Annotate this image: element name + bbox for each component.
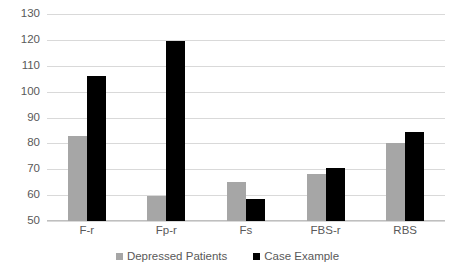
legend-label: Case Example <box>264 250 339 262</box>
legend-swatch-icon <box>253 253 260 260</box>
bar[interactable] <box>386 143 405 221</box>
bar-group <box>206 14 286 221</box>
x-axis-tick-label: Fp-r <box>127 224 207 237</box>
y-axis-tick-label: 100 <box>0 86 40 98</box>
y-axis-tick-label: 60 <box>0 189 40 201</box>
bar-groups <box>47 14 445 221</box>
legend-swatch-icon <box>116 253 123 260</box>
bar-group <box>47 14 127 221</box>
bar[interactable] <box>166 41 185 221</box>
y-axis-tick-label: 50 <box>0 215 40 227</box>
gridline <box>47 221 445 222</box>
bar[interactable] <box>227 182 246 221</box>
x-axis-tick-label: FBS-r <box>286 224 366 237</box>
chart-legend: Depressed PatientsCase Example <box>0 250 455 262</box>
bar-group <box>365 14 445 221</box>
y-axis-tick-label: 80 <box>0 138 40 150</box>
bar-group <box>127 14 207 221</box>
y-axis-tick-label: 90 <box>0 112 40 124</box>
y-axis-tick-label: 70 <box>0 164 40 176</box>
bar[interactable] <box>147 196 166 221</box>
bar[interactable] <box>405 132 424 221</box>
bar[interactable] <box>307 174 326 221</box>
y-axis-tick-label: 120 <box>0 34 40 46</box>
x-axis-tick-labels: F-rFp-rFsFBS-rRBS <box>47 224 445 237</box>
bar-group <box>286 14 366 221</box>
plot-area <box>47 14 445 221</box>
bar[interactable] <box>68 136 87 221</box>
legend-item[interactable]: Case Example <box>253 250 339 262</box>
x-axis-tick-label: RBS <box>365 224 445 237</box>
y-axis-tick-labels: 1301201101009080706050 <box>0 14 40 221</box>
bar-chart: 1301201101009080706050 F-rFp-rFsFBS-rRBS… <box>0 0 455 276</box>
y-axis-tick-label: 110 <box>0 60 40 72</box>
legend-item[interactable]: Depressed Patients <box>116 250 227 262</box>
bar[interactable] <box>87 76 106 221</box>
bar[interactable] <box>326 168 345 221</box>
x-axis-tick-label: F-r <box>47 224 127 237</box>
bar[interactable] <box>246 199 265 221</box>
legend-label: Depressed Patients <box>127 250 227 262</box>
x-axis-tick-label: Fs <box>206 224 286 237</box>
y-axis-tick-label: 130 <box>0 8 40 20</box>
